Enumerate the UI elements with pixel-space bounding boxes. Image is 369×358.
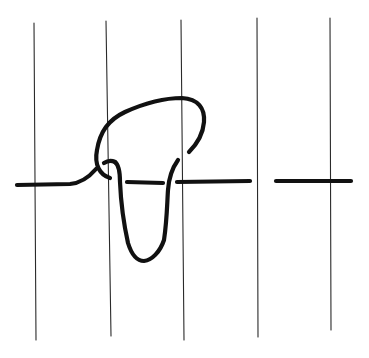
knot-diagram (0, 0, 369, 358)
knot-strand (17, 98, 351, 261)
strand-under-segment (127, 182, 163, 183)
vertical-line-4 (257, 18, 258, 337)
vertical-line-5 (330, 18, 331, 330)
strand-left-entry (17, 169, 96, 185)
vertical-line-1 (34, 23, 36, 340)
strand-upper-loop (96, 98, 204, 178)
strand-right-segment (177, 181, 250, 182)
strand-lower-loop (115, 160, 178, 261)
